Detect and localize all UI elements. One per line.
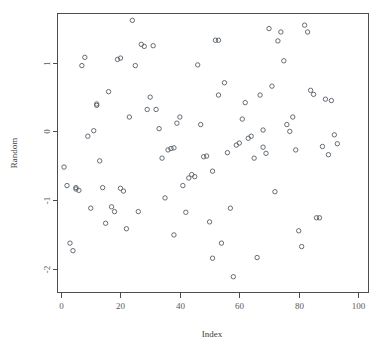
plot-canvas: 10-1-2 020406080100 Index Random xyxy=(0,0,380,350)
x-axis-title: Index xyxy=(202,329,223,339)
x-tick-label: 100 xyxy=(352,301,366,311)
y-tick-label: -1 xyxy=(42,197,52,205)
y-axis-title: Random xyxy=(9,138,19,169)
x-tick-label: 80 xyxy=(295,301,305,311)
x-tick-label: 20 xyxy=(116,301,126,311)
y-tick-label: 1 xyxy=(42,61,52,66)
y-tick-label: 0 xyxy=(42,129,52,134)
y-tick-label: -2 xyxy=(42,266,52,274)
x-tick-label: 60 xyxy=(235,301,245,311)
x-tick-label: 0 xyxy=(59,301,64,311)
scatter-plot-figure: 10-1-2 020406080100 Index Random xyxy=(0,0,380,350)
x-tick-label: 40 xyxy=(176,301,186,311)
